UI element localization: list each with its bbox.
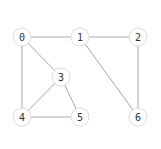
node-label: 2 xyxy=(135,32,141,43)
node-label: 1 xyxy=(77,32,83,43)
graph-diagram: 0123456 xyxy=(0,0,161,149)
node-label: 3 xyxy=(58,72,64,83)
node-label: 6 xyxy=(135,112,141,123)
node-0: 0 xyxy=(13,28,31,46)
node-label: 0 xyxy=(19,32,25,43)
node-label: 4 xyxy=(19,112,25,123)
edge-1-6 xyxy=(80,37,138,117)
edges-layer xyxy=(22,37,138,117)
node-4: 4 xyxy=(13,108,31,126)
node-2: 2 xyxy=(129,28,147,46)
node-6: 6 xyxy=(129,108,147,126)
node-label: 5 xyxy=(77,112,83,123)
node-1: 1 xyxy=(71,28,89,46)
nodes-layer: 0123456 xyxy=(13,28,147,126)
node-3: 3 xyxy=(52,68,70,86)
node-5: 5 xyxy=(71,108,89,126)
